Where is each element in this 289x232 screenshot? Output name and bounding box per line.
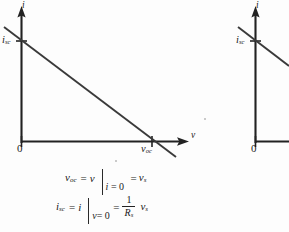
equation-voc-evaluation-bar: i = 0 — [102, 169, 103, 195]
y-intercept-label-sub-right: sc — [239, 38, 245, 45]
origin-label-right: 0 — [251, 143, 257, 154]
equation-voc-variable: v — [90, 172, 95, 184]
origin-label-left: 0 — [17, 143, 23, 154]
equation-isc-variable: i — [78, 201, 81, 213]
equation-isc: isc = i v= 0 = 1 Rs vs — [56, 194, 148, 220]
y-intercept-label-left: isc — [2, 35, 11, 46]
equation-isc-condition-eq: = 0 — [97, 210, 110, 221]
equation-isc-condition: v= 0 — [92, 210, 110, 221]
equation-isc-fraction-denominator: Rs — [125, 207, 134, 219]
x-axis-label-left: v — [191, 131, 195, 141]
equation-voc-result-sub: s — [144, 177, 147, 185]
equation-voc-condition-var: i — [106, 181, 109, 192]
scan-speck — [204, 118, 206, 120]
y-intercept-label-right: isc — [236, 35, 245, 46]
equation-isc-result-sub: s — [145, 206, 148, 214]
equation-block: voc = v i = 0 = vs isc = i v= 0 = 1 — [56, 163, 246, 232]
equation-voc-result: vs — [139, 171, 147, 184]
y-intercept-label-sub-left: sc — [5, 38, 11, 45]
equation-isc-lhs: isc — [56, 200, 65, 213]
equation-voc-condition: i = 0 — [106, 181, 124, 192]
iv-characteristic-line-left — [4, 27, 176, 157]
equation-isc-equals: = — [65, 201, 78, 213]
equation-isc-fraction-numerator: 1 — [126, 195, 131, 206]
equation-isc-evaluation-bar: v= 0 — [88, 198, 89, 224]
equation-isc-result: vs — [140, 200, 148, 213]
x-intercept-label-left: voc — [141, 144, 152, 155]
iv-characteristic-line-right — [238, 27, 289, 66]
figure-canvas: i isc 0 voc v i isc 0 voc = v i = 0 = vs… — [0, 0, 289, 232]
equation-voc-rhs: = vs — [131, 171, 147, 184]
plot-right-axes — [250, 6, 289, 147]
equation-isc-fraction: 1 Rs — [122, 195, 135, 219]
equation-isc-fraction-denominator-sub: s — [131, 211, 134, 218]
equation-voc: voc = v i = 0 = vs — [65, 165, 146, 191]
equation-isc-rhs: = 1 Rs vs — [113, 195, 148, 219]
equation-voc-equals: = — [77, 172, 90, 184]
equation-voc-condition-eq: = 0 — [111, 181, 124, 192]
equation-voc-rhs-equals: = — [131, 172, 137, 184]
y-axis-label-left: i — [22, 1, 25, 11]
equation-voc-lhs: voc — [65, 171, 77, 184]
equation-voc-lhs-sub: oc — [70, 177, 77, 185]
x-intercept-label-sub-left: oc — [146, 147, 152, 154]
plot-left-axes — [16, 6, 189, 147]
y-axis-label-right: i — [256, 1, 259, 11]
equation-isc-rhs-equals: = — [113, 201, 119, 213]
scan-speck — [115, 160, 117, 162]
